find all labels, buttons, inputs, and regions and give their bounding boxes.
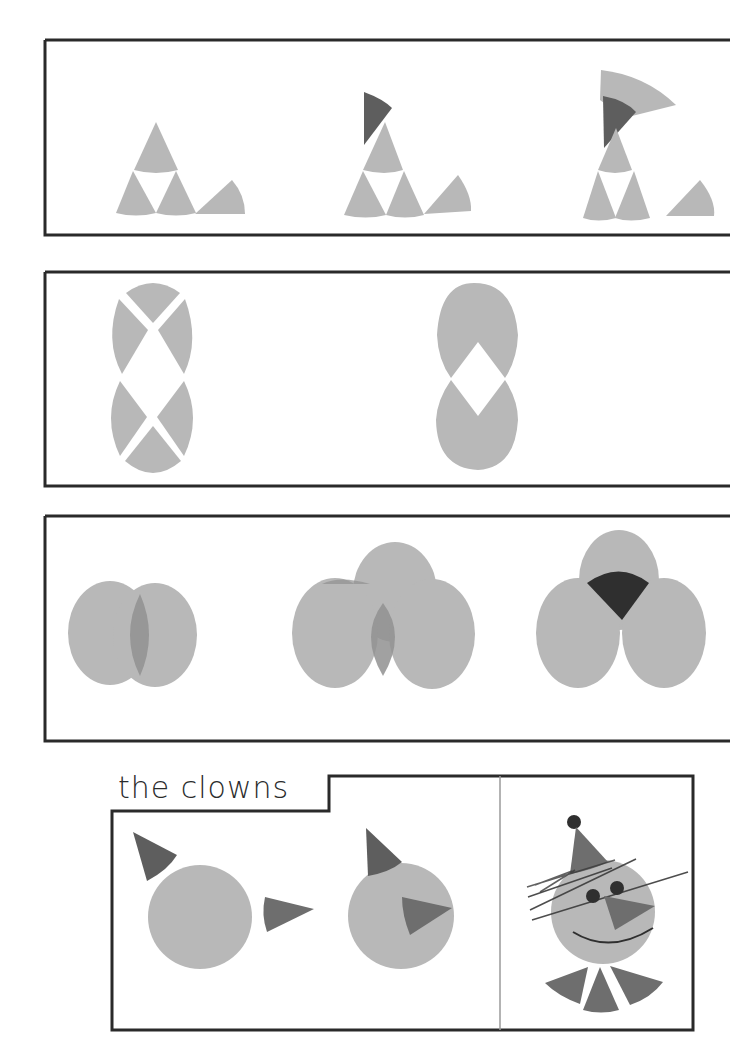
three-circles-overlap <box>292 542 475 689</box>
panel-quarters <box>0 260 730 500</box>
quarters-diagram <box>0 260 730 500</box>
clown-parts-2 <box>348 828 454 969</box>
overlaps-diagram <box>0 510 730 750</box>
cone-figure-3 <box>583 70 714 221</box>
two-circles <box>68 581 197 687</box>
panel-clowns <box>0 770 730 1046</box>
cone-figure-2 <box>344 92 471 218</box>
cone-figure-1 <box>116 122 245 216</box>
clowns-diagram <box>0 770 730 1046</box>
three-circles-wedge <box>536 530 706 688</box>
clown-parts-1 <box>133 832 314 969</box>
panel-cones <box>0 0 730 250</box>
cones-diagram <box>0 0 730 250</box>
finished-clown <box>527 815 688 1013</box>
split-circles <box>111 283 193 473</box>
panel-overlaps <box>0 510 730 750</box>
diamond-circles <box>436 283 518 470</box>
